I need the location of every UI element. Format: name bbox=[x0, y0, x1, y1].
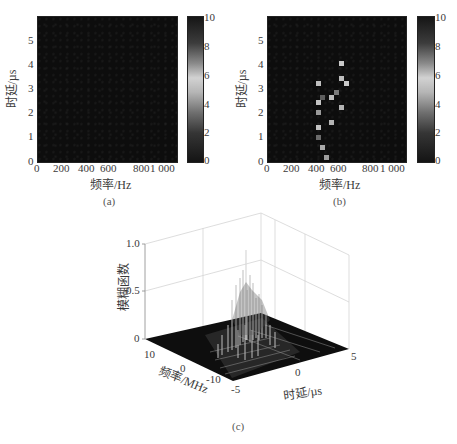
surface-plot-c bbox=[0, 0, 457, 444]
ztick-c-1: 1.0 bbox=[126, 238, 140, 249]
delay-tick-minus5: -5 bbox=[231, 384, 240, 395]
ztick-c-0: 0 bbox=[134, 333, 140, 344]
zlabel-c: 模糊函数 bbox=[114, 263, 132, 311]
freq-tick-10: 10 bbox=[144, 349, 155, 360]
delay-tick-0: 0 bbox=[295, 367, 301, 378]
delay-tick-5: 5 bbox=[351, 351, 357, 362]
caption-c: (c) bbox=[232, 420, 244, 432]
